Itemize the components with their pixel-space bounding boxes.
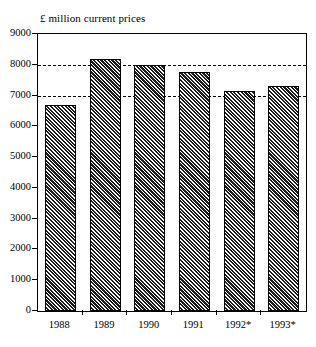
y-tick-mark-3000: [32, 218, 37, 219]
y-tick-mark-0: [32, 310, 37, 311]
y-tick-label-6000: 6000: [10, 120, 31, 131]
chart-title: £ million current prices: [40, 12, 145, 25]
y-tick-label-8000: 8000: [10, 59, 31, 70]
bar-1991: [179, 72, 210, 311]
y-tick-mark-4000: [32, 187, 37, 188]
x-tick-label-1993-est: 1993*: [270, 319, 296, 331]
y-tick-label-2000: 2000: [10, 243, 31, 254]
x-tick-label-1988: 1988: [49, 319, 70, 331]
y-tick-mark-7000: [32, 95, 37, 96]
y-tick-label-7000: 7000: [10, 89, 31, 100]
x-tick-label-1989: 1989: [94, 319, 115, 331]
x-tick-label-1992-est: 1992*: [225, 319, 251, 331]
y-tick-mark-9000: [32, 33, 37, 34]
y-tick-label-1000: 1000: [10, 274, 31, 285]
x-tick-label-1991: 1991: [183, 319, 204, 331]
bar-1990: [134, 65, 165, 311]
x-tick-label-1990: 1990: [138, 319, 159, 331]
bar-1989: [90, 59, 121, 311]
y-tick-mark-8000: [32, 64, 37, 65]
bar-1992-est: [224, 91, 255, 311]
bar-chart: £ million current prices 010002000300040…: [0, 0, 316, 347]
y-axis: [0, 0, 37, 347]
y-tick-label-5000: 5000: [10, 151, 31, 162]
y-tick-mark-1000: [32, 279, 37, 280]
y-tick-mark-5000: [32, 156, 37, 157]
plot-area: [37, 33, 307, 312]
y-tick-label-3000: 3000: [10, 212, 31, 223]
y-tick-label-9000: 9000: [10, 28, 31, 39]
y-tick-mark-6000: [32, 125, 37, 126]
bar-series: [38, 34, 306, 311]
y-tick-mark-2000: [32, 248, 37, 249]
bar-1993-est: [268, 86, 299, 311]
y-tick-label-4000: 4000: [10, 182, 31, 193]
y-tick-label-0: 0: [26, 305, 31, 316]
bar-1988: [45, 105, 76, 311]
